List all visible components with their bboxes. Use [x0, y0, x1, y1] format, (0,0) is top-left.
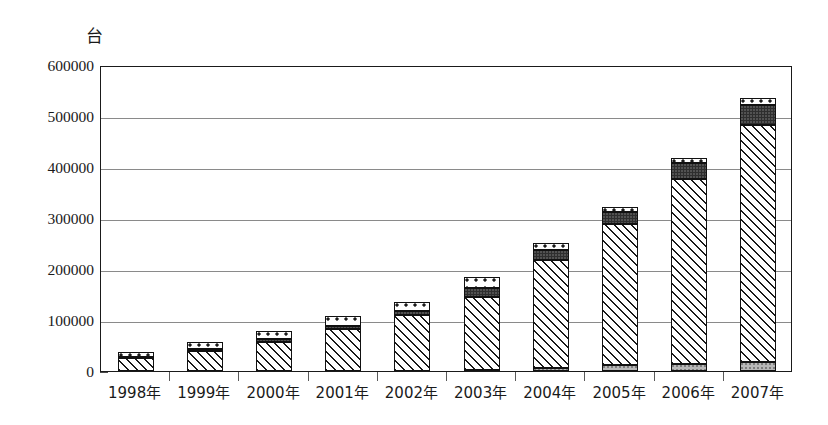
y-axis-tick-label: 100000 — [14, 313, 94, 329]
bar-segment-segment-dark — [671, 163, 707, 179]
y-axis-tick-label: 400000 — [14, 160, 94, 176]
x-axis-tick-mark — [377, 372, 378, 381]
x-axis-tick-label: 2003年 — [446, 386, 515, 401]
x-axis-tick-label: 2001年 — [308, 386, 377, 401]
bar-segment-segment-dark — [394, 311, 430, 315]
x-axis-tick-mark — [723, 372, 724, 381]
x-axis-tick-label: 2000年 — [238, 386, 307, 401]
x-axis-tick-label: 2007年 — [723, 386, 792, 401]
x-axis-tick-mark — [238, 372, 239, 381]
bar-2003年 — [464, 277, 500, 371]
x-axis-tick-label: 2002年 — [377, 386, 446, 401]
bar-segment-segment-dotted — [602, 207, 638, 212]
y-axis-tick-label: 0 — [14, 364, 94, 380]
x-axis-tick-label: 1998年 — [100, 386, 169, 401]
stacked-bar-chart: 台 0100000200000300000400000500000600000 … — [0, 0, 828, 425]
bar-segment-segment-dark — [325, 326, 361, 329]
x-axis-tick-label: 2004年 — [515, 386, 584, 401]
bar-segment-segment-base — [602, 365, 638, 371]
x-axis-tick-label: 2005年 — [584, 386, 653, 401]
x-axis-tick-mark — [515, 372, 516, 381]
x-axis-tick-label: 1999年 — [169, 386, 238, 401]
bar-segment-segment-hatched — [464, 297, 500, 370]
y-axis-tick-label: 200000 — [14, 262, 94, 278]
bar-segment-segment-hatched — [187, 351, 223, 371]
bar-2006年 — [671, 158, 707, 371]
bar-2002年 — [394, 302, 430, 371]
x-axis-tick-label: 2006年 — [654, 386, 723, 401]
bar-segment-segment-dotted — [671, 158, 707, 164]
y-axis: 0100000200000300000400000500000600000 — [8, 66, 94, 372]
x-axis: 1998年1999年2000年2001年2002年2003年2004年2005年… — [100, 372, 792, 422]
bar-segment-segment-hatched — [394, 315, 430, 371]
bar-segment-segment-dotted — [394, 302, 430, 311]
bar-segment-segment-dotted — [118, 352, 154, 357]
bar-segment-segment-hatched — [533, 260, 569, 368]
x-axis-tick-mark — [654, 372, 655, 381]
bar-segment-segment-dotted — [325, 316, 361, 326]
bar-segment-segment-hatched — [602, 224, 638, 365]
x-axis-tick-mark — [584, 372, 585, 381]
gridline — [101, 118, 791, 119]
x-axis-tick-mark — [308, 372, 309, 381]
bar-segment-segment-hatched — [325, 329, 361, 371]
x-axis-tick-mark — [446, 372, 447, 381]
bar-segment-segment-dotted — [464, 277, 500, 288]
x-axis-tick-mark — [169, 372, 170, 381]
bar-segment-segment-dark — [464, 288, 500, 297]
bar-2000年 — [256, 331, 292, 371]
bar-1998年 — [118, 352, 154, 371]
bar-segment-segment-base — [671, 364, 707, 371]
bar-segment-segment-base — [740, 362, 776, 371]
bar-segment-segment-dark — [533, 250, 569, 260]
bar-2004年 — [533, 242, 569, 371]
y-axis-unit-label: 台 — [86, 22, 103, 47]
bar-segment-segment-base — [533, 368, 569, 371]
bar-segment-segment-hatched — [118, 358, 154, 371]
bar-segment-segment-dotted — [187, 342, 223, 349]
bar-segment-segment-dotted — [256, 331, 292, 339]
bar-2001年 — [325, 316, 361, 371]
bar-segment-segment-dark — [256, 339, 292, 342]
bar-2005年 — [602, 207, 638, 371]
y-axis-tick-label: 600000 — [14, 58, 94, 74]
bar-segment-segment-dotted — [533, 243, 569, 250]
bar-segment-segment-dark — [602, 212, 638, 224]
y-axis-tick-label: 300000 — [14, 211, 94, 227]
bar-segment-segment-hatched — [256, 342, 292, 371]
bar-segment-segment-hatched — [671, 179, 707, 364]
bar-2007年 — [740, 98, 776, 371]
y-axis-tick-label: 500000 — [14, 109, 94, 125]
plot-area — [100, 66, 792, 372]
bar-segment-segment-dark — [740, 105, 776, 124]
bar-segment-segment-dotted — [740, 98, 776, 105]
bar-segment-segment-hatched — [740, 125, 776, 363]
bar-1999年 — [187, 342, 223, 371]
